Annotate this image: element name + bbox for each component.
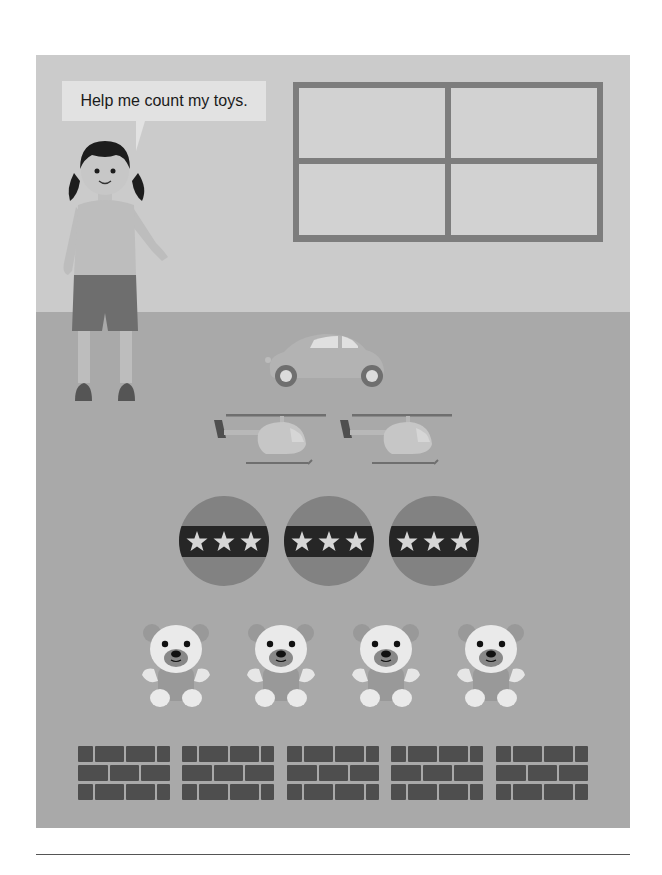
brick-block-icon [78,746,170,800]
speech-bubble: Help me count my toys. [62,81,266,121]
window-pane [299,88,445,158]
teddy-bear-icon [245,623,317,707]
brick-block-icon [496,746,588,800]
ball-icon [388,495,480,587]
teddy-bear-icon [350,623,422,707]
window-pane [451,88,597,158]
window [293,82,603,242]
teddy-bear-icon [140,623,212,707]
window-pane [451,164,597,235]
speech-bubble-text: Help me count my toys. [80,92,247,110]
illustration-scene: Help me count my toys. [36,55,630,828]
girl-character-icon [56,133,176,408]
brick-block-icon [287,746,379,800]
ball-icon [178,495,270,587]
helicopter-icon [334,410,454,470]
ball-icon [283,495,375,587]
brick-block-icon [182,746,274,800]
brick-block-icon [391,746,483,800]
car-icon [264,332,388,390]
window-pane [299,164,445,235]
page-divider [36,854,630,855]
teddy-bear-icon [455,623,527,707]
helicopter-icon [208,410,328,470]
